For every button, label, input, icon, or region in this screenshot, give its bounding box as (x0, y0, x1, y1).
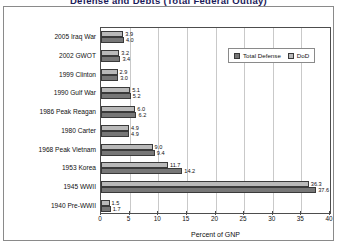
bar-total (101, 168, 182, 174)
y-axis-tick-label: 1940 Pre-WWII (4, 201, 96, 208)
bar-group: 11.714.2 (101, 159, 330, 178)
bar-value-label: 37.6 (318, 187, 329, 193)
bar-total (101, 56, 120, 62)
bar-total (101, 150, 155, 156)
bar-value-label: 1.7 (113, 206, 121, 212)
y-axis-tick-label: 1986 Peak Reagan (4, 108, 96, 115)
x-axis-tick-label: 5 (127, 215, 131, 222)
y-axis-tick-label: 1980 Carter (4, 126, 96, 133)
legend-label: DoD (297, 52, 309, 59)
bar-group: 2.93.0 (101, 65, 330, 84)
bar-group: 36.337.6 (101, 178, 330, 197)
bar-total (101, 93, 131, 99)
bar-value-label: 3.4 (122, 56, 130, 62)
legend-item: DoD (288, 52, 309, 59)
x-axis-label: Percent of GNP (100, 231, 331, 238)
y-axis-tick-label: 1990 Gulf War (4, 89, 96, 96)
legend-swatch (234, 53, 240, 59)
bar-group: 1.51.7 (101, 196, 330, 215)
y-axis-tick-label: 1999 Clinton (4, 70, 96, 77)
x-axis-ticks: 0510152025303540 (100, 215, 331, 227)
x-axis-tick-label: 40 (325, 215, 332, 222)
y-axis-tick-label: 1945 WWII (4, 182, 96, 189)
bar-group: 3.94.0 (101, 28, 330, 47)
chart-frame: 2005 Iraq War2002 GWOT1999 Clinton1990 G… (3, 6, 334, 241)
x-axis-tick-label: 0 (98, 215, 102, 222)
bar-value-label: 6.2 (138, 112, 146, 118)
y-axis-tick-label: 1953 Korea (4, 164, 96, 171)
legend-swatch (288, 53, 294, 59)
y-axis-category-labels: 2005 Iraq War2002 GWOT1999 Clinton1990 G… (4, 27, 96, 214)
legend-item: Total Defense (234, 52, 281, 59)
bar-value-label: 4.9 (131, 131, 139, 137)
bar-total (101, 37, 124, 43)
x-axis-tick-label: 10 (154, 215, 161, 222)
x-axis-tick-label: 25 (240, 215, 247, 222)
x-axis-tick-label: 35 (297, 215, 304, 222)
y-axis-tick-label: 2002 GWOT (4, 52, 96, 59)
x-axis-tick-label: 20 (211, 215, 218, 222)
bar-total (101, 112, 136, 118)
bar-value-label: 4.0 (126, 37, 134, 43)
y-axis-tick-label: 2005 Iraq War (4, 33, 96, 40)
bar-value-label: 9.4 (157, 150, 165, 156)
y-axis-tick-label: 1968 Peak Vietnam (4, 145, 96, 152)
bar-value-label: 3.0 (120, 75, 128, 81)
bar-value-label: 14.2 (184, 168, 195, 174)
bar-total (101, 75, 118, 81)
x-axis-tick-label: 30 (268, 215, 275, 222)
bar-total (101, 131, 129, 137)
chart-legend: Total DefenseDoD (228, 48, 315, 63)
bar-group: 9.09.4 (101, 140, 330, 159)
bar-group: 5.15.2 (101, 84, 330, 103)
bar-group: 4.94.9 (101, 122, 330, 141)
bar-value-label: 5.2 (133, 93, 141, 99)
bar-total (101, 187, 316, 193)
bar-group: 6.06.2 (101, 103, 330, 122)
x-axis-tick-label: 15 (182, 215, 189, 222)
bar-total (101, 206, 111, 212)
legend-label: Total Defense (243, 52, 281, 59)
